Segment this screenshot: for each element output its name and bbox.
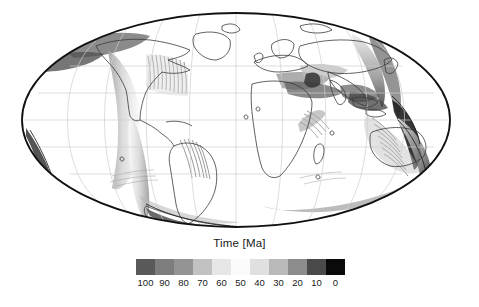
colorbar-tick-70: 70 <box>197 277 208 288</box>
colorbar-segment-1 <box>155 259 174 275</box>
figure-root: Time [Ma] 1009080706050403020100 <box>0 0 479 307</box>
colorbar-tick-100: 100 <box>138 277 154 288</box>
colorbar-tick-80: 80 <box>178 277 189 288</box>
colorbar-segment-10 <box>326 259 345 275</box>
colorbar-tick-50: 50 <box>235 277 246 288</box>
colorbar-tick-labels: 1009080706050403020100 <box>136 277 345 291</box>
colorbar-tick-60: 60 <box>216 277 227 288</box>
colorbar-segment-3 <box>193 259 212 275</box>
colorbar-title: Time [Ma] <box>0 237 479 249</box>
colorbar-strip <box>136 259 345 275</box>
colorbar-tick-10: 10 <box>311 277 322 288</box>
colorbar-segment-5 <box>231 259 250 275</box>
colorbar-segment-4 <box>212 259 231 275</box>
colorbar-segment-9 <box>307 259 326 275</box>
colorbar-tick-40: 40 <box>254 277 265 288</box>
colorbar-segment-0 <box>136 259 155 275</box>
map-content <box>0 0 479 238</box>
age-band-zagros <box>304 72 320 87</box>
colorbar-segment-6 <box>250 259 269 275</box>
colorbar-segment-7 <box>269 259 288 275</box>
colorbar-tick-90: 90 <box>159 277 170 288</box>
mollweide-map <box>0 0 479 238</box>
colorbar-segment-8 <box>288 259 307 275</box>
colorbar-segment-2 <box>174 259 193 275</box>
age-band-far-nw-pacific <box>28 47 54 66</box>
colorbar-tick-0: 0 <box>333 277 338 288</box>
colorbar-tick-30: 30 <box>273 277 284 288</box>
map-panel <box>0 0 479 238</box>
colorbar-tick-20: 20 <box>292 277 303 288</box>
colorbar-panel: Time [Ma] 1009080706050403020100 <box>0 236 479 307</box>
